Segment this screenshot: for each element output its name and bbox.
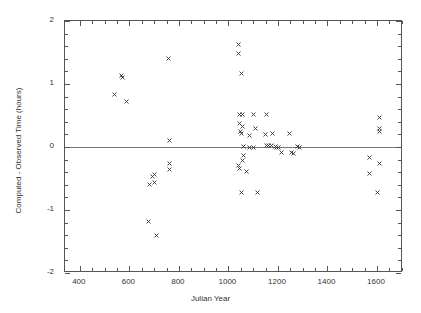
data-point [236,51,241,56]
y-axis-title: Computed - Observed Time (hours) [14,51,23,251]
x-axis-tick [389,268,390,271]
data-point [166,56,171,61]
y-axis-tick [65,235,68,236]
x-axis-tick [377,21,378,26]
x-axis-tick [340,268,341,271]
x-axis-tick [241,268,242,271]
y-axis-tick [65,147,70,148]
x-axis-tick [204,21,205,24]
x-axis-tick [365,21,366,24]
x-axis-tick [241,21,242,24]
x-axis-tick [290,21,291,24]
x-tick-label: 800 [158,277,198,286]
data-point [367,171,372,176]
x-tick-label: 400 [59,277,99,286]
data-point [120,75,125,80]
data-point [263,132,268,137]
x-axis-tick [303,268,304,271]
y-axis-tick [398,185,401,186]
x-axis-tick [117,21,118,24]
data-point [167,138,172,143]
x-axis-tick [92,21,93,24]
y-axis-tick [398,235,401,236]
x-axis-tick [105,268,106,271]
y-axis-tick [398,109,401,110]
data-point [239,71,244,76]
x-axis-tick [389,21,390,24]
y-axis-tick [65,122,68,123]
x-axis-tick [327,21,328,26]
x-axis-tick [352,268,353,271]
y-tick-label: 1 [34,78,54,87]
y-axis-tick [65,172,68,173]
x-axis-tick [154,268,155,271]
y-axis-tick [65,109,68,110]
y-axis-tick [398,160,401,161]
y-axis-tick [65,71,68,72]
x-axis-tick [167,21,168,24]
x-axis-tick [191,268,192,271]
y-axis-tick [65,273,70,274]
y-axis-tick [65,97,68,98]
x-axis-tick [352,21,353,24]
y-axis-tick [65,84,70,85]
y-tick-label: 2 [34,15,54,24]
x-axis-tick [80,21,81,26]
data-point [287,131,292,136]
x-axis-tick [266,268,267,271]
data-point [297,145,302,150]
x-axis-tick [278,266,279,271]
y-axis-tick [65,46,68,47]
data-point [239,131,244,136]
x-axis-tick [365,268,366,271]
x-axis-tick [315,268,316,271]
y-tick-label: 0 [34,141,54,150]
x-tick-label: 1400 [306,277,346,286]
x-axis-tick [253,268,254,271]
y-tick-label: -2 [34,267,54,276]
zero-reference-line [65,147,401,148]
data-point [264,112,269,117]
x-tick-label: 600 [108,277,148,286]
x-axis-tick [315,21,316,24]
x-axis-tick [80,266,81,271]
data-point [146,219,151,224]
y-axis-tick [396,147,401,148]
y-axis-tick [65,21,70,22]
data-point [253,126,258,131]
y-axis-tick [65,34,68,35]
data-point [251,112,256,117]
y-axis-tick [65,185,68,186]
y-axis-tick [65,223,68,224]
y-axis-tick [65,248,68,249]
x-axis-tick [191,21,192,24]
data-point [375,190,380,195]
y-axis-tick [396,84,401,85]
data-point [377,161,382,166]
x-axis-tick [377,266,378,271]
y-axis-tick [65,134,68,135]
x-axis-tick [142,21,143,24]
y-axis-tick [396,210,401,211]
x-axis-tick [303,21,304,24]
x-axis-tick [290,268,291,271]
data-point [167,161,172,166]
y-axis-tick [65,160,68,161]
x-axis-tick [129,21,130,26]
y-axis-tick [65,59,68,60]
x-axis-tick [167,268,168,271]
y-axis-tick [65,210,70,211]
data-point [244,169,249,174]
x-axis-tick [340,21,341,24]
x-tick-label: 1600 [356,277,396,286]
data-point [237,166,242,171]
x-axis-tick [129,266,130,271]
x-axis-tick [278,21,279,26]
y-axis-tick [398,223,401,224]
y-axis-tick [65,260,68,261]
x-axis-tick [179,21,180,26]
data-point [152,172,157,177]
y-axis-tick [398,71,401,72]
x-axis-tick [92,268,93,271]
data-point [377,115,382,120]
